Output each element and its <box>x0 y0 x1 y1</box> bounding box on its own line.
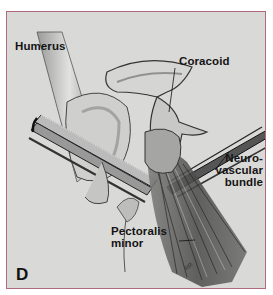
label-neurovascular-line2: vascular <box>216 164 263 176</box>
label-pectoralis-minor: Pectoralis minor <box>111 225 167 249</box>
illustration-frame: RR Humerus Coracoid Neuro- vascular bund… <box>6 11 266 289</box>
label-coracoid: Coracoid <box>179 55 230 67</box>
label-pectoralis-line2: minor <box>111 237 167 249</box>
label-neurovascular-line1: Neuro- <box>216 152 263 164</box>
label-humerus: Humerus <box>15 40 66 52</box>
label-neurovascular-line3: bundle <box>216 176 263 188</box>
label-pectoralis-line1: Pectoralis <box>111 225 167 237</box>
label-neurovascular-bundle: Neuro- vascular bundle <box>216 152 263 188</box>
panel-letter: D <box>16 265 28 285</box>
